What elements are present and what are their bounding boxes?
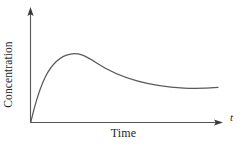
concentration-curve xyxy=(31,54,218,123)
x-axis-label: Time xyxy=(0,127,245,139)
y-axis-label-text: Concentration xyxy=(3,41,15,107)
concentration-time-figure: Concentration Time t xyxy=(0,0,245,149)
x-axis-variable-symbol: t xyxy=(230,112,233,123)
